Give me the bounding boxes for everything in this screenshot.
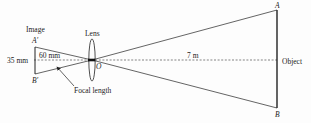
focal-length-arrow: [57, 67, 74, 86]
object-top-label: A: [274, 1, 280, 10]
ray-to-object-top: [92, 10, 277, 60]
lens-center-label: O: [96, 62, 102, 71]
image-bottom-label: B′: [32, 76, 39, 85]
camera-lens-diagram: Image A′ B′ 35 mm 60 mm Lens O Focal len…: [0, 0, 311, 123]
focal-distance-label: 60 mm: [39, 51, 60, 60]
ray-bottom-image: [35, 60, 92, 74]
object-bottom-label: B: [275, 110, 280, 119]
lens-label: Lens: [85, 29, 100, 38]
image-height-label: 35 mm: [7, 56, 28, 65]
diagram-canvas: Image A′ B′ 35 mm 60 mm Lens O Focal len…: [0, 0, 311, 123]
lens-center-mark: [88, 59, 95, 62]
focal-length-label: Focal length: [74, 86, 112, 95]
object-label: Object: [282, 57, 303, 66]
image-label: Image: [26, 25, 45, 34]
image-top-label: A′: [31, 36, 39, 45]
ray-to-object-bottom: [92, 60, 277, 108]
object-distance-label: 7 m: [187, 51, 199, 60]
